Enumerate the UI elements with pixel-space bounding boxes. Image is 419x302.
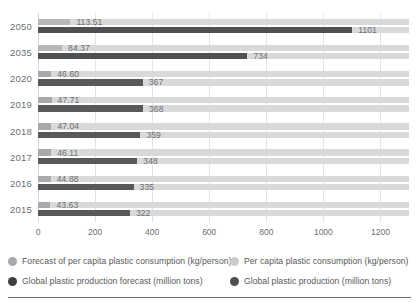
x-axis-tick: 200 — [88, 227, 102, 237]
legend-item-per-capita[interactable]: Per capita plastic consumption (kg/perso… — [230, 252, 409, 271]
x-axis-tick: 600 — [202, 227, 216, 237]
x-axis-tick: 800 — [259, 227, 273, 237]
bar-value-label-consumption: 84.37 — [68, 43, 90, 53]
bar-value-label-production: 734 — [253, 51, 267, 61]
legend-swatch-icon — [230, 277, 239, 286]
bar-consumption[interactable] — [38, 97, 52, 103]
bar-row: 46.60367 — [38, 65, 409, 91]
bar-row: 44.88335 — [38, 170, 409, 196]
legend-label: Per capita plastic consumption (kg/perso… — [244, 257, 409, 266]
bar-value-label-consumption: 47.04 — [57, 121, 79, 131]
legend-item-forecast-per-capita[interactable]: Forecast of per capita plastic consumpti… — [8, 252, 232, 271]
bar-value-label-production: 359 — [146, 130, 160, 140]
bar-row: 46.11348 — [38, 144, 409, 170]
legend-row-top: Forecast of per capita plastic consumpti… — [8, 252, 413, 271]
bar-production[interactable] — [38, 53, 247, 59]
bar-track — [38, 149, 409, 155]
x-axis-tick: 1200 — [371, 227, 390, 237]
bar-consumption[interactable] — [38, 45, 62, 51]
bar-value-label-consumption: 47.71 — [58, 95, 80, 105]
legend-label: Forecast of per capita plastic consumpti… — [22, 257, 232, 266]
bar-value-label-production: 348 — [143, 156, 157, 166]
bar-track — [38, 176, 409, 182]
bar-row: 43.63322 — [38, 196, 409, 222]
bar-consumption[interactable] — [38, 123, 51, 129]
legend-label: Global plastic production forecast (mill… — [22, 277, 203, 286]
y-axis-tick-2015: 2015 — [10, 203, 32, 214]
bar-value-label-consumption: 46.11 — [57, 148, 78, 158]
bar-value-label-consumption: 43.63 — [56, 200, 78, 210]
y-axis-tick-2020: 2020 — [10, 73, 32, 84]
chart-legend: Forecast of per capita plastic consumpti… — [8, 252, 413, 296]
y-axis-tick-2019: 2019 — [10, 99, 32, 110]
legend-swatch-icon — [8, 257, 17, 266]
legend-swatch-icon — [8, 277, 17, 286]
bar-track — [38, 123, 409, 129]
legend-label: Global plastic production (million tons) — [244, 277, 391, 286]
legend-item-production-forecast[interactable]: Global plastic production forecast (mill… — [8, 272, 203, 291]
footer-divider — [8, 297, 411, 298]
bar-track — [38, 45, 409, 51]
bar-value-label-consumption: 113.51 — [76, 17, 102, 27]
bar-production[interactable] — [38, 132, 140, 138]
bar-consumption[interactable] — [38, 71, 51, 77]
bar-production[interactable] — [38, 27, 352, 33]
bar-value-label-consumption: 46.60 — [57, 69, 79, 79]
bar-row: 47.71368 — [38, 91, 409, 117]
bar-production[interactable] — [38, 79, 143, 85]
plot-area: 113.51110184.3773446.6036747.7136847.043… — [38, 13, 409, 222]
bar-track — [38, 71, 409, 77]
bar-production[interactable] — [38, 184, 134, 190]
bar-row: 84.37734 — [38, 39, 409, 65]
y-axis-tick-2035: 2035 — [10, 47, 32, 58]
bar-row: 47.04359 — [38, 118, 409, 144]
bar-value-label-production: 322 — [136, 208, 150, 218]
legend-row-bottom: Global plastic production forecast (mill… — [8, 272, 413, 291]
bar-consumption[interactable] — [38, 176, 51, 182]
bar-rows: 113.51110184.3773446.6036747.7136847.043… — [38, 13, 409, 222]
bar-consumption[interactable] — [38, 19, 70, 25]
bar-production[interactable] — [38, 158, 137, 164]
legend-swatch-icon — [230, 257, 239, 266]
y-axis-tick-2050: 2050 — [10, 21, 32, 32]
bar-production[interactable] — [38, 210, 130, 216]
bar-consumption[interactable] — [38, 149, 51, 155]
x-axis-tick: 1000 — [314, 227, 333, 237]
x-axis-tick-labels: 020040060080010001200 — [38, 222, 409, 242]
y-axis-tick-2017: 2017 — [10, 151, 32, 162]
chart-root: 20502035202020192018201720162015 113.511… — [0, 0, 419, 302]
bar-value-label-production: 335 — [140, 182, 154, 192]
bar-value-label-production: 368 — [149, 104, 163, 114]
bar-value-label-production: 367 — [149, 77, 163, 87]
bar-row: 113.511101 — [38, 13, 409, 39]
legend-item-production[interactable]: Global plastic production (million tons) — [230, 272, 391, 291]
bar-consumption[interactable] — [38, 202, 50, 208]
bar-production[interactable] — [38, 105, 143, 111]
y-axis-category-labels: 20502035202020192018201720162015 — [0, 13, 36, 222]
bar-track — [38, 202, 409, 208]
bar-value-label-production: 1101 — [358, 25, 377, 35]
x-axis-tick: 0 — [36, 227, 41, 237]
y-axis-tick-2016: 2016 — [10, 177, 32, 188]
x-axis-tick: 400 — [145, 227, 159, 237]
bar-value-label-consumption: 44.88 — [57, 174, 79, 184]
y-axis-tick-2018: 2018 — [10, 125, 32, 136]
bar-track — [38, 97, 409, 103]
